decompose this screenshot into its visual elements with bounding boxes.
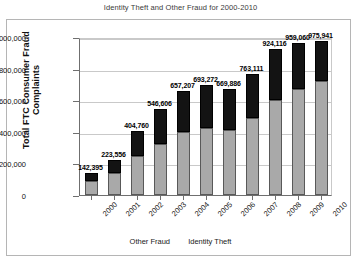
- data-label-2006: 669,886: [216, 80, 241, 87]
- bar-segment-identity-theft: [85, 173, 98, 182]
- bar-2002: [131, 131, 144, 195]
- bar-2005: [200, 85, 213, 195]
- bar-segment-identity-theft: [246, 74, 259, 117]
- data-label-2002: 404,760: [124, 122, 149, 129]
- y-axis-tick-label: 0: [0, 192, 26, 201]
- bar-segment-other-fraud: [108, 173, 121, 195]
- bar-segment-other-fraud: [223, 130, 236, 195]
- bar-2000: [85, 173, 98, 195]
- legend-item-identity-theft: Identity Theft: [188, 237, 231, 246]
- x-axis-tick-mark: [298, 196, 299, 200]
- x-axis-tick-mark: [183, 196, 184, 200]
- bar-2010: [315, 41, 328, 195]
- bar-segment-other-fraud: [200, 128, 213, 195]
- x-axis-tick-mark: [321, 196, 322, 200]
- x-axis-tick-mark: [206, 196, 207, 200]
- bar-segment-identity-theft: [154, 109, 167, 144]
- bar-2009: [292, 43, 305, 195]
- y-axis-tick-label: 600,000: [0, 97, 26, 106]
- bar-2008: [269, 49, 282, 195]
- bar-segment-other-fraud: [315, 81, 328, 195]
- bar-segment-identity-theft: [108, 160, 121, 174]
- bar-2007: [246, 74, 259, 195]
- x-axis-tick-mark: [160, 196, 161, 200]
- x-axis-tick-mark: [252, 196, 253, 200]
- bar-segment-other-fraud: [246, 118, 259, 195]
- bar-segment-identity-theft: [177, 91, 190, 132]
- bar-2003: [154, 109, 167, 195]
- data-label-2001: 223,556: [101, 151, 126, 158]
- bar-segment-identity-theft: [200, 85, 213, 127]
- x-axis-tick-mark: [275, 196, 276, 200]
- bar-segment-other-fraud: [131, 156, 144, 195]
- bar-2001: [108, 160, 121, 195]
- plot-area: [79, 38, 332, 196]
- data-label-2007: 763,111: [240, 65, 264, 72]
- bar-segment-identity-theft: [131, 131, 144, 156]
- bar-segment-identity-theft: [269, 49, 282, 100]
- data-label-2003: 546,606: [147, 100, 172, 107]
- legend-item-other-fraud: Other Fraud: [130, 237, 170, 246]
- chart-legend: Other Fraud Identity Theft: [0, 237, 361, 246]
- data-label-2008: 924,116: [262, 40, 286, 47]
- bar-2004: [177, 91, 190, 195]
- y-axis-tick-label: 800,000: [0, 65, 26, 74]
- data-label-2000: 142,395: [78, 164, 103, 171]
- bar-segment-identity-theft: [292, 43, 305, 89]
- y-axis-tick-label: 400,000: [0, 128, 26, 137]
- data-label-2004: 657,207: [170, 82, 195, 89]
- bar-segment-other-fraud: [292, 89, 305, 195]
- bar-segment-other-fraud: [269, 100, 282, 195]
- chart-container: Identity Theft and Other Fraud for 2000-…: [0, 0, 361, 262]
- x-axis-tick-mark: [229, 196, 230, 200]
- bar-segment-other-fraud: [177, 132, 190, 195]
- x-axis-tick-mark: [114, 196, 115, 200]
- bar-segment-identity-theft: [315, 41, 328, 81]
- bar-2006: [223, 89, 236, 195]
- data-label-2005: 693,272: [193, 76, 218, 83]
- data-label-2009: 959,060: [285, 34, 310, 41]
- y-axis-tick-mark: [73, 196, 79, 197]
- y-axis-tick-label: 200,000: [0, 160, 26, 169]
- x-axis-tick-mark: [91, 196, 92, 200]
- bar-segment-identity-theft: [223, 89, 236, 130]
- data-label-2010: 975,941: [308, 32, 333, 39]
- x-axis-tick-mark: [137, 196, 138, 200]
- chart-title: Identity Theft and Other Fraud for 2000-…: [0, 3, 361, 12]
- y-axis-tick-label: 1,000,000: [0, 34, 26, 43]
- bar-segment-other-fraud: [154, 144, 167, 195]
- bar-segment-other-fraud: [85, 181, 98, 195]
